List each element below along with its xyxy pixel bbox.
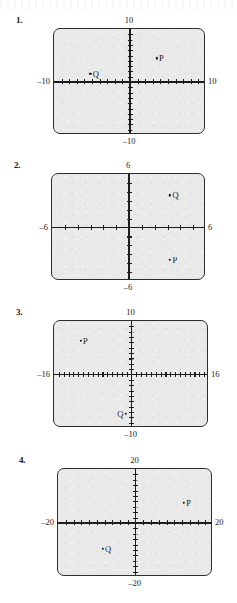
x-axis-tick	[185, 372, 186, 377]
y-axis-tick	[128, 71, 133, 72]
point-label: P	[83, 336, 88, 346]
y-axis-tick	[128, 77, 133, 78]
x-axis-tick	[183, 79, 184, 84]
axis-label-left: –16	[27, 369, 50, 379]
y-axis-tick	[128, 119, 133, 120]
y-axis-tick	[129, 401, 134, 402]
y-axis-tick	[128, 109, 133, 110]
y-axis-tick	[133, 539, 138, 540]
x-axis-tick	[65, 225, 66, 230]
axis-label-right: 6	[208, 222, 232, 232]
x-axis-tick	[127, 372, 128, 377]
point-label: P	[159, 53, 164, 63]
y-axis-tick	[133, 555, 138, 556]
x-axis-tick	[159, 520, 160, 525]
x-axis-tick	[116, 225, 117, 230]
x-axis-tick	[194, 372, 195, 377]
axis-label-right: 10	[208, 76, 232, 86]
y-axis-tick	[129, 353, 134, 354]
point-label: Q	[117, 409, 123, 419]
y-axis-tick	[129, 332, 134, 333]
x-axis-tick	[174, 520, 175, 525]
x-axis-tick	[78, 225, 79, 230]
y-axis-tick	[129, 337, 134, 338]
axis-label-left: –10	[27, 76, 50, 86]
point-dot	[169, 258, 171, 260]
point-dot	[89, 72, 91, 74]
y-axis-tick	[133, 566, 138, 567]
y-axis-tick	[129, 385, 134, 386]
x-axis-tick	[167, 520, 168, 525]
point-dot	[183, 502, 185, 504]
axis-label-left: –6	[25, 222, 48, 232]
x-axis-tick	[198, 79, 199, 84]
point-label: Q	[105, 543, 111, 553]
point-dot	[101, 547, 103, 549]
x-axis-tick	[93, 372, 94, 377]
x-axis-tick	[105, 520, 106, 525]
coordinate-plane: PQ10–10–1010	[53, 28, 205, 134]
point-label: Q	[93, 68, 99, 78]
x-axis-tick	[84, 79, 85, 84]
point-label: Q	[172, 190, 178, 200]
x-axis-tick	[156, 372, 157, 377]
y-axis-tick	[128, 124, 133, 125]
point-dot	[155, 57, 157, 59]
x-axis-tick	[161, 372, 162, 377]
axis-label-bottom: –6	[124, 282, 133, 292]
x-axis-tick	[199, 372, 200, 377]
y-axis-tick	[128, 66, 133, 67]
x-axis-tick	[92, 79, 93, 84]
y-axis-tick	[133, 501, 138, 502]
y-axis-tick	[129, 326, 134, 327]
y-axis-tick	[129, 417, 134, 418]
y-axis-tick	[133, 561, 138, 562]
x-axis-tick	[138, 79, 139, 84]
x-axis-tick	[97, 520, 98, 525]
y-axis-tick	[128, 93, 133, 94]
y-axis-tick	[129, 358, 134, 359]
y-axis-tick	[133, 474, 138, 475]
y-axis-tick	[128, 50, 133, 51]
y-axis-tick	[128, 34, 133, 35]
x-axis-tick	[117, 372, 118, 377]
problem-number: 3.	[16, 307, 22, 317]
point-dot	[169, 194, 171, 196]
axis-label-bottom: –10	[123, 136, 136, 146]
x-axis-tick	[160, 79, 161, 84]
plot-frame: PQ	[53, 28, 205, 134]
y-axis-tick	[127, 192, 132, 193]
y-axis-tick	[127, 236, 132, 237]
x-axis-tick	[146, 372, 147, 377]
x-axis-tick	[190, 372, 191, 377]
problem-number: 4.	[19, 455, 25, 465]
x-axis-tick	[107, 372, 108, 377]
point-dot	[79, 340, 81, 342]
x-axis-tick	[64, 372, 65, 377]
point-dot	[124, 413, 126, 415]
y-axis-tick	[129, 364, 134, 365]
y-axis-tick	[127, 183, 132, 184]
x-axis-tick	[122, 79, 123, 84]
x-axis-tick	[122, 372, 123, 377]
y-axis-tick	[129, 391, 134, 392]
x-axis-tick	[155, 225, 156, 230]
y-axis-tick	[128, 87, 133, 88]
y-axis-tick	[129, 423, 134, 424]
y-axis-tick	[133, 480, 138, 481]
coordinate-plane: PQ10–10–1616	[53, 320, 208, 427]
x-axis-tick	[73, 372, 74, 377]
x-axis-tick	[66, 520, 67, 525]
y-axis-tick	[129, 380, 134, 381]
x-axis-tick	[143, 520, 144, 525]
x-axis-tick	[62, 79, 63, 84]
y-axis-tick	[127, 254, 132, 255]
y-axis-tick	[127, 263, 132, 264]
x-axis-tick	[190, 520, 191, 525]
axis-label-top: 6	[126, 160, 130, 170]
axis-label-left: –20	[31, 517, 54, 527]
x-axis-tick	[103, 225, 104, 230]
x-axis-tick	[89, 520, 90, 525]
y-axis-tick	[127, 210, 132, 211]
x-axis-tick	[153, 79, 154, 84]
